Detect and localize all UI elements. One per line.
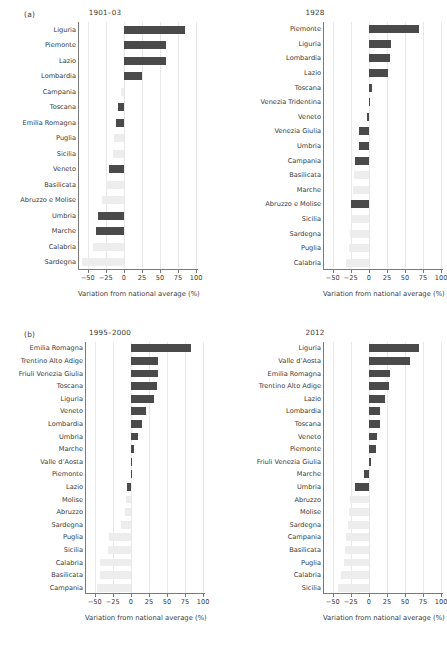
x-tick [351,594,352,597]
bar [359,127,368,135]
bar [345,546,369,554]
bar [355,483,369,491]
category-label: Abruzzo [56,508,83,516]
bar [351,200,368,208]
category-label: Sicilia [302,215,321,223]
category-label: Puglia [301,559,321,567]
bar [118,103,124,111]
x-tick [405,594,406,597]
category-label: Umbria [52,212,76,220]
x-tick [149,594,150,597]
category-label: Lazio [66,483,83,491]
bar [93,243,124,251]
x-tick [369,594,370,597]
bar [369,40,391,48]
x-tick [160,270,161,273]
bar [124,72,142,80]
panel-b: (b) 1995–2000 Emilia RomagnaTrentino Alt… [0,320,421,646]
category-label: Lazio [304,69,321,77]
gridline [333,22,334,269]
gridline [351,342,352,593]
category-label: Marche [52,227,76,235]
bar [124,57,166,65]
category-label: Sicilia [302,584,321,592]
category-label: Piemonte [52,470,83,478]
bar [113,150,124,158]
bar [116,119,124,127]
category-label: Sardegna [290,521,321,529]
x-tick-label: −50 [326,274,340,282]
category-label: Marche [297,470,321,478]
x-tick [333,270,334,273]
category-label: Venezia Giulia [274,127,321,135]
x-tick-label: −25 [344,598,358,606]
chart-title: 1901–03 [20,8,190,17]
chart-title: 1928 [225,8,405,17]
x-tick-label: 50 [401,274,409,282]
category-label: Basilicata [289,171,321,179]
bar [346,533,368,541]
gridline [405,22,406,269]
bar [131,395,154,403]
category-label: Abruzzo e Molise [20,196,76,204]
bar [125,508,131,516]
x-tick-label: 100 [190,274,203,282]
gridline [95,342,96,593]
bar [106,181,124,189]
panel-a: (a) 1901–03 LiguriaPiemonteLazioLombardi… [0,0,421,320]
x-tick-label: 75 [181,598,189,606]
bar [124,26,185,34]
x-tick-label: −50 [326,598,340,606]
x-tick-label: −25 [106,598,120,606]
bar [124,41,166,49]
bar [369,370,391,378]
category-label: Lazio [59,57,76,65]
category-label: Umbria [297,142,321,150]
category-label: Sardegna [52,521,83,529]
category-label: Puglia [301,244,321,252]
bar [97,584,131,592]
x-tick-label: 50 [156,274,164,282]
category-label: Liguria [54,26,76,34]
category-label: Valle d’Aosta [40,458,83,466]
bar [131,407,146,415]
bar [369,445,376,453]
x-tick [351,270,352,273]
category-label: Trentino Alto Adige [21,357,83,365]
category-label: Calabria [294,571,321,579]
x-tick [167,594,168,597]
gridline [423,22,424,269]
x-tick-label: 50 [401,598,409,606]
x-tick-label: 0 [367,598,371,606]
x-tick-label: 25 [138,274,146,282]
category-label: Liguria [299,344,321,352]
category-label: Marche [297,186,321,194]
x-tick-label: −50 [81,274,95,282]
gridline [441,22,442,269]
bar [108,546,131,554]
bar [100,571,131,579]
bar [369,98,370,106]
bar [359,142,369,150]
x-tick-label: 75 [419,274,427,282]
chart-title: 2012 [225,328,405,337]
category-label: Lombardia [41,72,76,80]
bar [109,165,123,173]
bar [131,344,191,352]
x-tick [423,270,424,273]
category-label: Marche [59,445,83,453]
gridline [149,342,150,593]
bar [355,157,369,165]
category-label: Sardegna [45,258,76,266]
bar [126,496,131,504]
category-label: Lombardia [286,54,321,62]
x-axis-title: Variation from national average (%) [323,614,443,622]
chart-2012: 2012 LiguriaValle d’AostaEmilia RomagnaT… [210,320,421,646]
bar [131,445,135,453]
gridline [203,342,204,593]
bar [131,420,143,428]
bar [369,395,386,403]
gridline [369,342,370,593]
category-label: Puglia [63,533,83,541]
